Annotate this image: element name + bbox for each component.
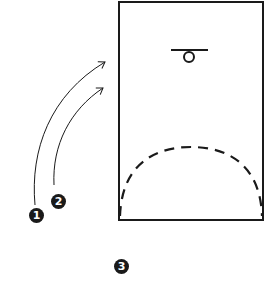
- player-1-cut-arrow: [34, 62, 105, 205]
- player-3-marker: 3: [114, 259, 129, 274]
- half-court-outline: [119, 2, 263, 220]
- hoop: [184, 52, 194, 62]
- play-diagram: [0, 0, 278, 293]
- player-1-marker: 1: [29, 208, 44, 223]
- player-2-marker: 2: [51, 194, 66, 209]
- three-point-arc: [120, 147, 262, 216]
- player-2-cut-arrow: [54, 88, 103, 185]
